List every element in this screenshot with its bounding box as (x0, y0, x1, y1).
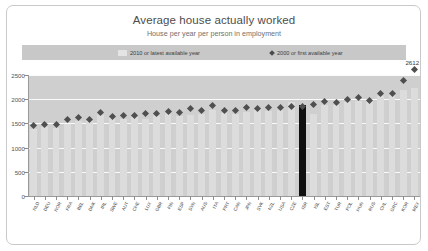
value-annotation: 2612 (405, 59, 419, 66)
x-axis-tick-mark (224, 196, 225, 200)
bar (30, 129, 37, 196)
y-axis-tick-label: 2500 (11, 72, 25, 79)
x-axis-tick-label: NOR (53, 201, 62, 212)
x-axis-labels: NLDDEUNORFRABELDNKIRLSWEAUTCHELUXGBRFINE… (28, 201, 420, 245)
x-axis-tick-mark (347, 196, 348, 200)
bar (265, 111, 272, 196)
bar (176, 116, 183, 196)
x-axis-tick-label: USA (278, 201, 287, 212)
chart-legend: 2010 or latest available year 2000 or fi… (22, 45, 406, 60)
marker-diamond (142, 110, 149, 117)
x-axis-tick-mark (78, 196, 79, 200)
bar (198, 114, 205, 196)
legend-bar-label: 2010 or latest available year (130, 50, 200, 56)
y-axis-tick-label: 1000 (11, 144, 25, 151)
bar (142, 119, 149, 196)
y-axis-tick-mark (24, 123, 28, 124)
bar (366, 100, 373, 196)
y-axis-tick-mark (24, 172, 28, 173)
x-axis-tick-label: LUX (143, 201, 152, 211)
x-axis-tick-label: RUS (367, 201, 376, 212)
x-axis-tick-label: ESP (177, 201, 186, 211)
x-axis-tick-label: TUR (334, 201, 343, 212)
x-axis-tick-label: KOR (401, 201, 410, 212)
x-axis-tick-label: GBR (154, 201, 163, 212)
x-axis-tick-mark (280, 196, 281, 200)
x-axis-tick-mark (67, 196, 68, 200)
marker-diamond (30, 122, 37, 129)
y-axis-tick-mark (24, 75, 28, 76)
plot-area (28, 75, 420, 196)
legend-marker-label: 2000 or first available year (277, 50, 343, 56)
x-axis-tick-label: SVN (188, 201, 197, 212)
bar (321, 105, 328, 196)
x-axis-tick-label: JPN (244, 201, 252, 211)
x-axis-tick-label: ISR (301, 201, 309, 210)
bar (187, 115, 194, 196)
x-axis-tick-mark (358, 196, 359, 200)
x-axis-tick-label: PRT (222, 201, 231, 211)
x-axis-tick-label: BEL (76, 201, 84, 211)
x-axis-tick-label: ISL (312, 201, 320, 209)
bar (344, 102, 351, 196)
legend-bar-swatch-icon (118, 50, 127, 56)
x-axis-tick-mark (56, 196, 57, 200)
y-axis-tick-mark (24, 99, 28, 100)
bar (109, 117, 116, 196)
bar (333, 105, 340, 196)
bar (243, 112, 250, 196)
x-axis-tick-mark (101, 196, 102, 200)
x-axis-tick-label: CAN (233, 201, 242, 212)
x-axis-tick-mark (123, 196, 124, 200)
x-axis-tick-label: IRL (99, 201, 107, 210)
chart-page: Average house actually worked House per … (0, 0, 428, 251)
bar (75, 121, 82, 196)
bar (411, 88, 418, 197)
marker-diamond (64, 116, 71, 123)
bar (400, 90, 407, 196)
x-axis-tick-mark (45, 196, 46, 200)
x-axis-tick-mark (134, 196, 135, 200)
x-axis-tick-mark (90, 196, 91, 200)
x-axis-tick-label: SWE (109, 201, 118, 213)
x-axis-tick-mark (381, 196, 382, 200)
bar (209, 110, 216, 196)
x-axis-tick-mark (370, 196, 371, 200)
x-axis-tick-mark (302, 196, 303, 200)
bar (377, 96, 384, 196)
y-axis-tick-label: 1500 (11, 120, 25, 127)
x-axis-tick-mark (392, 196, 393, 200)
marker-diamond (232, 107, 239, 114)
bar (153, 116, 160, 196)
bar (254, 110, 261, 196)
x-axis-tick-mark (157, 196, 158, 200)
x-axis-tick-mark (190, 196, 191, 200)
x-axis-tick-mark (168, 196, 169, 200)
legend-diamond-icon (269, 50, 275, 56)
x-axis-tick-label: ITA (212, 201, 220, 209)
y-axis (28, 75, 29, 196)
marker-diamond (321, 98, 328, 105)
bar (221, 113, 228, 196)
bar (97, 115, 104, 196)
bar (389, 94, 396, 196)
x-axis-tick-label: SVK (255, 201, 264, 211)
marker-diamond (209, 102, 216, 109)
bar (86, 121, 93, 196)
marker-diamond (310, 101, 317, 108)
marker-diamond (243, 104, 250, 111)
chart-title: Average house actually worked (0, 14, 428, 26)
bar (53, 128, 60, 196)
x-axis-tick-mark (414, 196, 415, 200)
x-axis-tick-label: NZL (267, 201, 275, 211)
x-axis-tick-label: CHE (132, 201, 141, 212)
x-axis-tick-label: CHL (378, 201, 387, 211)
x-axis-tick-mark (246, 196, 247, 200)
x-axis-tick-mark (202, 196, 203, 200)
x-axis-tick-label: MEX (412, 201, 421, 212)
marker-diamond (187, 105, 194, 112)
marker-diamond (120, 112, 127, 119)
marker-diamond (355, 94, 362, 101)
x-axis-tick-mark (112, 196, 113, 200)
x-axis-tick-mark (146, 196, 147, 200)
